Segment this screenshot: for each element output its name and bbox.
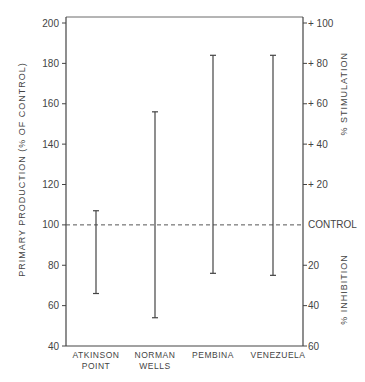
y-tick-label: 180: [42, 58, 59, 69]
right-tick-label: 40: [308, 300, 320, 311]
y-tick-label: 100: [42, 219, 59, 230]
stimulation-axis-title: % STIMULATION: [339, 52, 349, 135]
category-label: VENEZUELA: [250, 350, 305, 360]
right-tick-label: + 60: [308, 98, 328, 109]
category-label: POINT: [82, 361, 110, 371]
category-label: NORMAN: [135, 350, 176, 360]
y-tick-label: 60: [48, 300, 60, 311]
y-tick-label: 200: [42, 18, 59, 29]
right-tick-label: CONTROL: [308, 219, 357, 230]
category-label: PEMBINA: [192, 350, 234, 360]
category-label: WELLS: [139, 361, 170, 371]
y-tick-label: 80: [48, 260, 60, 271]
range-chart: 406080100120140160180200+ 100+ 80+ 60+ 4…: [0, 0, 365, 382]
category-label: ATKINSON: [73, 350, 120, 360]
right-tick-label: + 80: [308, 58, 328, 69]
right-tick-label: + 100: [308, 18, 334, 29]
y-axis-title: PRIMARY PRODUCTION (% OF CONTROL): [17, 62, 27, 277]
right-tick-label: + 20: [308, 179, 328, 190]
y-tick-label: 120: [42, 179, 59, 190]
right-tick-label: 60: [308, 341, 320, 352]
y-tick-label: 140: [42, 139, 59, 150]
inhibition-axis-title: % INHIBITION: [339, 254, 349, 325]
right-tick-label: + 40: [308, 139, 328, 150]
y-tick-label: 160: [42, 98, 59, 109]
right-tick-label: 20: [308, 260, 320, 271]
y-tick-label: 40: [48, 341, 60, 352]
